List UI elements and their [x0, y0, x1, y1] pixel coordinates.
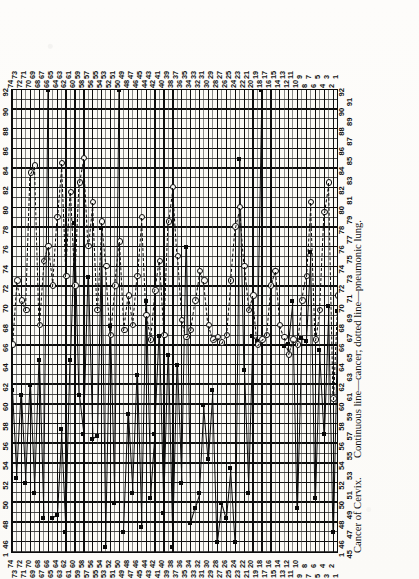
- y-tick-left-30: 30: [203, 560, 210, 568]
- y-tick-left-40: 40: [158, 560, 165, 568]
- gridline-horizontal: [137, 90, 138, 552]
- y-tick-right-50: 50: [114, 80, 121, 88]
- y-tick-left2-45: 45: [136, 570, 143, 578]
- y-tick-right-48: 48: [123, 80, 130, 88]
- gridline-horizontal: [74, 90, 75, 552]
- y-tick-left-18: 18: [256, 560, 263, 568]
- y-tick-right-36: 36: [176, 80, 183, 88]
- x-tick-bottom-64: 64: [338, 363, 346, 371]
- data-point-cancer: [121, 530, 125, 534]
- y-tick-left-74: 74: [7, 560, 14, 568]
- data-point-pneumonic-lung: [335, 292, 338, 298]
- y-tick-right-16: 16: [265, 80, 272, 88]
- y-tick-right-54: 54: [96, 80, 103, 88]
- gridline-horizontal: [270, 90, 271, 552]
- y-tick-left-70: 70: [25, 560, 32, 568]
- y-tick-left2-7: 7: [305, 574, 312, 578]
- y-tick-left2-73: 73: [11, 570, 18, 578]
- y-tick-right2-25: 25: [225, 71, 232, 79]
- y-tick-left2-33: 33: [190, 570, 197, 578]
- y-tick-left-12: 12: [283, 560, 290, 568]
- y-tick-left-36: 36: [176, 560, 183, 568]
- x-tick-top-50: 50: [2, 501, 10, 509]
- y-tick-left-6: 6: [310, 564, 317, 568]
- y-tick-left-10: 10: [292, 560, 299, 568]
- gridline-horizontal: [57, 90, 58, 552]
- gridline-horizontal: [324, 90, 325, 552]
- y-tick-right2-9: 9: [296, 75, 303, 79]
- y-tick-left2-17: 17: [261, 570, 268, 578]
- x-tick-top-70: 70: [2, 304, 10, 312]
- y-tick-left2-57: 57: [83, 570, 90, 578]
- y-tick-right2-35: 35: [181, 71, 188, 79]
- y-tick-left-2: 2: [328, 564, 335, 568]
- y-tick-left-4: 4: [319, 564, 326, 568]
- gridline-horizontal: [284, 90, 285, 552]
- y-tick-left-72: 72: [16, 560, 23, 568]
- y-tick-right2-37: 37: [172, 71, 179, 79]
- y-tick-right-40: 40: [158, 80, 165, 88]
- x-tick-bottom-68: 68: [338, 324, 346, 332]
- x-tick-top-86: 86: [2, 147, 10, 155]
- gridline-horizontal: [261, 90, 262, 552]
- y-tick-left2-15: 15: [270, 570, 277, 578]
- y-tick-right-70: 70: [25, 80, 32, 88]
- y-tick-right2-13: 13: [279, 71, 286, 79]
- x-tick-top-72: 72: [2, 285, 10, 293]
- x-tick-top-54: 54: [2, 462, 10, 470]
- y-tick-right-62: 62: [60, 80, 67, 88]
- x-tick-bottom-50: 50: [338, 501, 346, 509]
- y-tick-left-68: 68: [34, 560, 41, 568]
- y-tick-left-54: 54: [96, 560, 103, 568]
- x-tick-top-46: 46: [2, 540, 10, 548]
- y-tick-right-74: 74: [7, 80, 14, 88]
- y-tick-right2-55: 55: [92, 71, 99, 79]
- y-tick-left2-21: 21: [243, 570, 250, 578]
- data-point-cancer: [117, 89, 121, 92]
- data-point-cancer: [11, 388, 14, 392]
- x-tick-bottom-82: 82: [338, 186, 346, 194]
- x-tick-bottom-46: 46: [338, 540, 346, 548]
- y-tick-right-68: 68: [34, 80, 41, 88]
- y-tick-right-42: 42: [149, 80, 156, 88]
- x-tick-top-66: 66: [2, 344, 10, 352]
- y-tick-left-58: 58: [78, 560, 85, 568]
- y-tick-left-14: 14: [274, 560, 281, 568]
- y-tick-right2-43: 43: [145, 71, 152, 79]
- gridline-horizontal: [48, 90, 49, 552]
- x-tick-top-84: 84: [2, 167, 10, 175]
- y-tick-right2-69: 69: [29, 71, 36, 79]
- y-tick-left-46: 46: [132, 560, 139, 568]
- x-tick-bottom-66: 66: [338, 344, 346, 352]
- y-tick-left2-11: 11: [287, 570, 294, 578]
- gridline-horizontal: [119, 90, 120, 552]
- x-tick-top-58: 58: [2, 422, 10, 430]
- x-tick-top-80: 80: [2, 206, 10, 214]
- x-tick-top-60: 60: [2, 403, 10, 411]
- y-tick-right2-21: 21: [243, 71, 250, 79]
- gridline-horizontal: [244, 90, 245, 552]
- data-point-cancer: [50, 516, 54, 520]
- y-tick-right-22: 22: [239, 80, 246, 88]
- y-tick-left2-71: 71: [20, 570, 27, 578]
- y-tick-right-6: 6: [310, 84, 317, 88]
- y-tick-left-20: 20: [247, 560, 254, 568]
- y-tick-left-48: 48: [123, 560, 130, 568]
- data-point-cancer: [259, 89, 263, 92]
- y-tick-right2-1: 1: [332, 75, 339, 79]
- y-tick-right-4: 4: [319, 84, 326, 88]
- gridline-horizontal: [52, 90, 53, 552]
- gridline-horizontal: [217, 90, 218, 552]
- y-tick-right-8: 8: [301, 84, 308, 88]
- y-tick-right2-3: 3: [323, 75, 330, 79]
- gridline-horizontal: [275, 90, 276, 552]
- y-tick-right-46: 46: [132, 80, 139, 88]
- caption-legend: Continuous line—cancer; dotted line—pneu…: [352, 220, 363, 458]
- y-tick-right2-17: 17: [261, 71, 268, 79]
- y-tick-left-26: 26: [221, 560, 228, 568]
- gridline-horizontal: [97, 90, 98, 552]
- gridline-horizontal: [221, 90, 222, 552]
- gridline-horizontal: [128, 90, 129, 552]
- y-tick-right-18: 18: [256, 80, 263, 88]
- y-tick-left-8: 8: [301, 564, 308, 568]
